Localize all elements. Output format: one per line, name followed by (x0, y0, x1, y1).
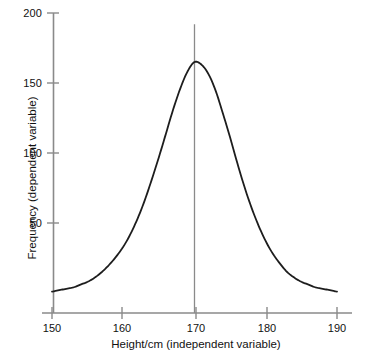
x-tick-label-160: 160 (113, 322, 132, 334)
y-axis-title: Frequency (dependent variable) (26, 78, 38, 278)
chart-figure: 200 150 100 50 150 160 170 180 190 Heigh… (0, 0, 367, 357)
chart-plot-area (0, 0, 367, 357)
y-tick-label-200: 200 (0, 7, 42, 19)
x-tick-label-180: 180 (258, 322, 277, 334)
x-tick-label-170: 170 (187, 322, 206, 334)
x-tick-label-190: 190 (328, 322, 347, 334)
x-tick-label-150: 150 (43, 322, 62, 334)
x-axis-title: Height/cm (independent variable) (111, 338, 280, 350)
